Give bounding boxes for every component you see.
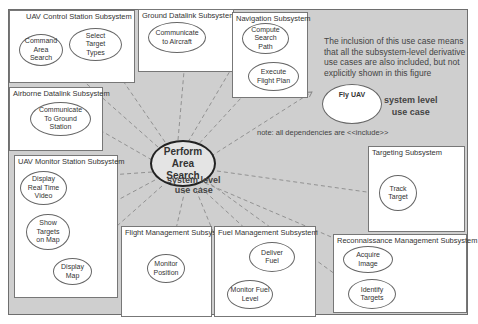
use-case-select-target-types[interactable]: Select Target Types xyxy=(69,28,122,61)
use-case-communicate-to-aircraft[interactable]: Communicate to Aircraft xyxy=(148,22,206,53)
subsystem-title: UAV Control Station Subsystem xyxy=(26,12,132,21)
subsystem-title: Reconnaissance Management Subsystem xyxy=(337,236,478,245)
subsystem-title: Fuel Management Subsystem xyxy=(218,228,318,237)
inclusion-note: The inclusion of this use case means tha… xyxy=(324,36,465,78)
subsystem-title: Targeting Subsystem xyxy=(372,148,442,157)
use-case-acquire-image[interactable]: Acquire Image xyxy=(343,246,393,273)
use-case-execute-flight-plan[interactable]: Execute Flight Plan xyxy=(248,62,299,91)
use-case-track-target[interactable]: Track Target xyxy=(379,175,417,211)
subsystem-title: Flight Management Subsys xyxy=(125,228,216,237)
use-case-command-area-search[interactable]: Command Area Search xyxy=(19,34,63,66)
use-case-fly-uav[interactable]: Fly UAV xyxy=(322,84,382,124)
use-case-communicate-to-ground-station[interactable]: Communicate To Ground Station xyxy=(30,102,91,136)
main-use-case-caption: system level use case xyxy=(167,175,221,195)
use-case-identify-targets[interactable]: Identify Targets xyxy=(348,279,396,309)
use-case-compute-search-path[interactable]: Compute Search Path xyxy=(242,23,289,54)
use-case-display-map[interactable]: Display Map xyxy=(53,258,92,285)
use-case-monitor-fuel-level[interactable]: Monitor Fuel Level xyxy=(227,280,273,309)
use-case-monitor-position[interactable]: Monitor Position xyxy=(147,254,185,283)
subsystem-title: Airborne Datalink Subsystem xyxy=(13,89,110,98)
use-case-show-targets-on-map[interactable]: Show Targets on Map xyxy=(26,214,70,250)
subsystem-title: Navigation Subsystem xyxy=(236,14,311,23)
dependencies-note: note: all dependencies are <<include>> xyxy=(257,128,388,137)
use-case-deliver-fuel[interactable]: Deliver Fuel xyxy=(249,242,295,272)
subsystem-title: Ground Datalink Subsystem xyxy=(142,11,235,20)
subsystem-title: UAV Monitor Station Subsystem xyxy=(18,157,125,166)
use-case-display-real-time-video[interactable]: Display Real Time Video xyxy=(20,171,67,205)
fly-uav-caption: system level use case xyxy=(384,94,438,118)
